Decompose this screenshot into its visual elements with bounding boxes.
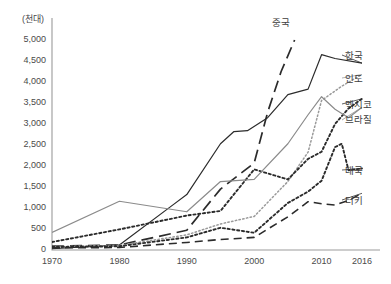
y-tick-label: 4,000 [12,76,46,86]
y-tick-label: 0 [12,244,46,254]
y-tick-label: 1,000 [12,202,46,212]
series-label-중국: 중국 [272,15,290,29]
y-tick-label: 2,500 [12,139,46,149]
chart-canvas [0,0,391,284]
y-tick-label: 5,000 [12,34,46,44]
x-tick-label: 1980 [99,256,139,266]
series-label-터키: 터키 [345,193,363,207]
y-tick-label: 500 [12,223,46,233]
y-tick-label: 3,500 [12,97,46,107]
x-tick-label: 1970 [32,256,72,266]
x-tick-label: 2016 [342,256,382,266]
series-line-6 [52,193,362,248]
line-chart: (천대) 5,0004,5004,0003,5003,0002,5002,000… [0,0,391,284]
series-label-태국: 태국 [345,163,363,177]
y-tick-label: 4,500 [12,55,46,65]
series-label-인도: 인도 [345,71,363,85]
series-label-멕시코: 멕시코 [345,97,372,111]
x-tick-label: 2000 [234,256,274,266]
series-label-브라질: 브라질 [345,112,372,126]
y-tick-label: 1,500 [12,181,46,191]
x-tick-label: 2010 [302,256,342,266]
series-line-5 [52,144,362,247]
series-line-2 [52,74,362,246]
series-label-한국: 한국 [345,48,363,62]
series-line-1 [52,55,362,249]
x-tick-label: 1990 [167,256,207,266]
y-tick-label: 3,000 [12,118,46,128]
y-tick-label: 2,000 [12,160,46,170]
series-line-3 [52,99,362,242]
